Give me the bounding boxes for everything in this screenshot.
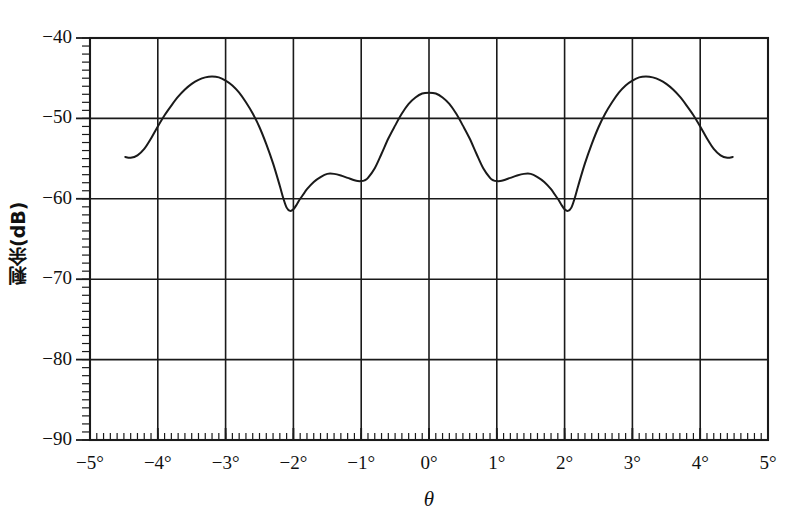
y-tick-label: −60: [8, 187, 72, 209]
x-tick-label: 3°: [602, 452, 662, 474]
y-tick-label: −50: [8, 106, 72, 128]
x-tick-label: 0°: [399, 452, 459, 474]
x-tick-label: 5°: [738, 452, 797, 474]
plot-background: [0, 0, 797, 525]
y-tick-label: −90: [8, 428, 72, 450]
y-tick-label: −70: [8, 267, 72, 289]
plot-area: [0, 0, 797, 525]
x-tick-label: 1°: [467, 452, 527, 474]
x-tick-label: 2°: [535, 452, 595, 474]
x-axis-title: θ: [399, 487, 459, 512]
x-tick-label: 4°: [670, 452, 730, 474]
y-tick-label: −80: [8, 348, 72, 370]
chart-figure: 剩余(dB) −40−50−60−70−80−90 −5°−4°−3°−2°−1…: [0, 0, 797, 525]
y-tick-label: −40: [8, 26, 72, 48]
x-tick-label: −1°: [331, 452, 391, 474]
x-tick-label: −5°: [60, 452, 120, 474]
x-tick-label: −2°: [263, 452, 323, 474]
x-tick-label: −3°: [196, 452, 256, 474]
x-tick-label: −4°: [128, 452, 188, 474]
